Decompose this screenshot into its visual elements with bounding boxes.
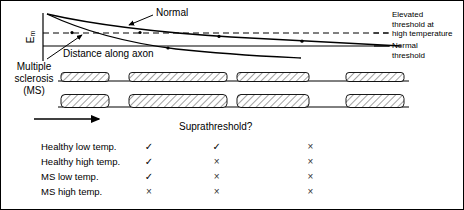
check-icon: ✓	[128, 169, 170, 184]
x-axis-label: Distance along axon	[63, 48, 154, 59]
normal-curve-point-b	[217, 35, 220, 38]
suprathreshold-table-element: Healthy low temp.✓✓×Healthy high temp.✓×…	[41, 139, 357, 199]
table-row: Healthy high temp.✓××	[41, 154, 357, 169]
cross-icon: ×	[128, 184, 170, 199]
table-body: Healthy low temp.✓✓×Healthy high temp.✓×…	[41, 139, 357, 199]
normal-decay-curve	[47, 14, 401, 46]
cross-icon: ×	[264, 184, 357, 199]
ms-curve-label: Multiple sclerosis (MS)	[3, 61, 65, 97]
cross-icon: ×	[170, 154, 264, 169]
normal-threshold-legend-label: Normal threshold	[392, 41, 464, 60]
y-axis-label-subscript: m	[27, 31, 38, 37]
normal-curve-label: Normal	[156, 7, 188, 18]
ms-curve-point-a	[70, 31, 73, 34]
normal-curve-point-a	[138, 31, 141, 34]
table-row: MS high temp.×××	[41, 184, 357, 199]
table-row: Healthy low temp.✓✓×	[41, 139, 357, 154]
check-icon: ✓	[128, 154, 170, 169]
suprathreshold-table: Healthy low temp.✓✓×Healthy high temp.✓×…	[41, 139, 357, 199]
cross-icon: ×	[264, 154, 357, 169]
cross-icon: ×	[264, 169, 357, 184]
table-row-label: Healthy high temp.	[41, 154, 128, 169]
table-row: MS low temp.✓××	[41, 169, 357, 184]
cross-icon: ×	[264, 139, 357, 154]
check-icon: ✓	[128, 139, 170, 154]
normal-label-leader	[129, 15, 153, 25]
normal-curve-point-c	[300, 40, 303, 43]
y-axis-label: Em	[19, 25, 41, 49]
table-row-label: MS high temp.	[41, 184, 128, 199]
cross-icon: ×	[170, 184, 264, 199]
cross-icon: ×	[170, 169, 264, 184]
table-row-label: MS low temp.	[41, 169, 128, 184]
table-row-label: Healthy low temp.	[41, 139, 128, 154]
elevated-threshold-legend-label: Elevated threshold at high temperature	[392, 10, 464, 39]
y-axis-label-main: E	[25, 37, 36, 44]
suprathreshold-header: Suprathreshold?	[179, 121, 252, 132]
check-icon: ✓	[170, 139, 264, 154]
figure-container: Em Normal Distance along axon Multiple s…	[0, 0, 464, 210]
ms-axon-myelin-segments	[61, 95, 404, 108]
healthy-axon-myelin-segments	[61, 73, 404, 82]
ms-curve-point-b	[166, 46, 169, 49]
